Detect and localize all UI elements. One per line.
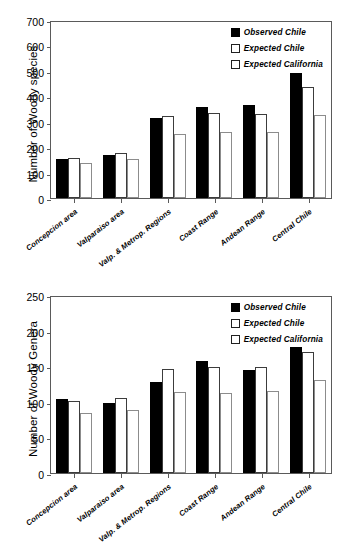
bar-expected-chile: [302, 87, 314, 198]
bar-group: [98, 22, 145, 198]
bar-observed: [103, 403, 115, 473]
plot-area-species: Observed Chile Expected Chile Expected C…: [50, 21, 332, 199]
bar-observed: [56, 159, 68, 198]
bar-group: [51, 297, 98, 473]
y-axis-tick-label: 400: [26, 92, 51, 104]
bar-expected-california: [127, 410, 139, 473]
bar-observed: [103, 155, 115, 198]
bar-observed: [243, 370, 255, 473]
bar-expected-chile: [162, 369, 174, 473]
bar-expected-california: [267, 391, 279, 473]
y-axis-tick-label: 600: [26, 41, 51, 53]
bar-expected-california: [314, 380, 326, 473]
bar-group: [238, 297, 285, 473]
x-axis-label-cell: Central Chile: [285, 480, 332, 550]
bar-observed: [56, 399, 68, 473]
y-axis-tick-label: 300: [26, 118, 51, 130]
bar-expected-california: [267, 132, 279, 198]
y-axis-title-genera: Number of Woody Genera: [27, 294, 39, 484]
y-axis-tick-label: 100: [26, 398, 51, 410]
y-axis-tick-label: 100: [26, 169, 51, 181]
x-axis-label-cell: Central Chile: [285, 205, 332, 275]
bar-group: [191, 297, 238, 473]
bar-group: [144, 297, 191, 473]
bar-expected-chile: [162, 116, 174, 198]
bar-observed: [196, 107, 208, 198]
bar-expected-chile: [68, 401, 80, 473]
bar-observed: [290, 347, 302, 473]
bar-groups-species: [51, 22, 331, 198]
bar-expected-california: [174, 392, 186, 473]
bar-observed: [150, 382, 162, 473]
bar-expected-california: [80, 413, 92, 473]
bar-observed: [290, 73, 302, 198]
chart-woody-species: Number of Woody species Observed Chile E…: [0, 0, 342, 275]
y-axis-tick-label: 200: [26, 143, 51, 155]
chart-woody-genera: Number of Woody Genera Observed Chile Ex…: [0, 275, 342, 550]
bar-expected-chile: [68, 158, 80, 198]
bar-observed: [150, 118, 162, 198]
bar-expected-chile: [115, 153, 127, 198]
x-axis-labels-species: Concepcion areaValparaiso areaValp. & Me…: [50, 205, 332, 275]
plot-area-genera: Observed Chile Expected Chile Expected C…: [50, 296, 332, 474]
x-axis-tick-label: Concepcion area: [24, 207, 79, 253]
bar-observed: [196, 361, 208, 473]
bar-observed: [243, 105, 255, 198]
bar-expected-california: [314, 115, 326, 198]
y-axis-tick-label: 700: [26, 16, 51, 28]
y-axis-tick-label: 200: [26, 327, 51, 339]
y-axis-tick-label: 500: [26, 67, 51, 79]
bar-group: [144, 22, 191, 198]
y-axis-tick-label: 150: [26, 362, 51, 374]
bar-expected-california: [174, 134, 186, 198]
bar-group: [98, 297, 145, 473]
bar-group: [51, 22, 98, 198]
bar-group: [238, 22, 285, 198]
y-axis-tick-label: 250: [26, 291, 51, 303]
bar-group: [284, 297, 331, 473]
bar-expected-california: [220, 132, 232, 198]
bar-expected-california: [127, 159, 139, 198]
bar-expected-chile: [255, 367, 267, 473]
bar-expected-chile: [302, 352, 314, 473]
bar-group: [284, 22, 331, 198]
bar-groups-genera: [51, 297, 331, 473]
bar-expected-chile: [208, 113, 220, 198]
bar-expected-chile: [115, 398, 127, 473]
bar-expected-california: [220, 393, 232, 473]
x-axis-tick-label: Concepcion area: [24, 482, 79, 528]
bar-expected-chile: [208, 367, 220, 473]
y-axis-tick-label: 50: [32, 433, 51, 445]
x-axis-labels-genera: Concepcion areaValparaiso areaValp. & Me…: [50, 480, 332, 550]
bar-expected-california: [80, 163, 92, 198]
bar-group: [191, 22, 238, 198]
bar-expected-chile: [255, 114, 267, 198]
